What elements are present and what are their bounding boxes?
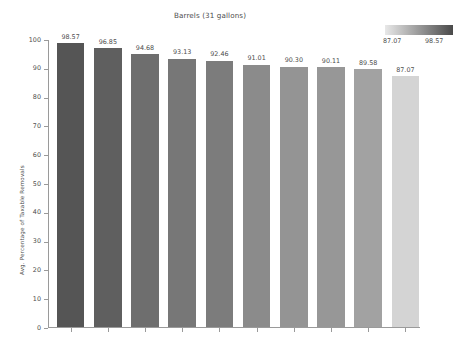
bar[interactable]: 89.58 [354, 69, 382, 327]
y-tick-mark [44, 98, 48, 99]
y-tick-label: 70 [33, 122, 41, 130]
bar-value-label: 89.58 [359, 59, 377, 67]
y-tick-mark [44, 126, 48, 127]
bar[interactable]: 93.13 [168, 59, 196, 327]
bar[interactable]: 87.07 [392, 76, 420, 327]
y-tick-label: 0 [37, 324, 41, 332]
bar[interactable]: 96.85 [94, 48, 122, 327]
y-tick-mark [44, 242, 48, 243]
x-tick-mark [257, 328, 258, 332]
y-tick-label: 50 [33, 180, 41, 188]
plot-area: 0102030405060708090100 98.5796.8594.6893… [48, 40, 420, 328]
bar-value-label: 90.11 [322, 57, 340, 65]
x-tick-mark [219, 328, 220, 332]
bar[interactable]: 91.01 [243, 65, 271, 327]
x-tick-mark [182, 328, 183, 332]
y-tick-mark [44, 299, 48, 300]
x-tick-mark [145, 328, 146, 332]
bar[interactable]: 90.11 [317, 67, 345, 327]
x-tick-mark [331, 328, 332, 332]
x-tick-mark [294, 328, 295, 332]
colorbar-max-label: 98.57 [425, 37, 443, 45]
y-tick-label: 60 [33, 151, 41, 159]
y-tick-mark [44, 328, 48, 329]
colorbar-gradient [385, 25, 453, 35]
bar-value-label: 91.01 [247, 54, 265, 62]
x-tick-mark [368, 328, 369, 332]
x-tick-mark [71, 328, 72, 332]
bar-value-label: 96.85 [99, 38, 117, 46]
y-tick-mark [44, 184, 48, 185]
x-axis-spine [48, 327, 420, 328]
y-tick-mark [44, 213, 48, 214]
bar[interactable]: 94.68 [131, 54, 159, 327]
x-tick-mark [405, 328, 406, 332]
y-tick-label: 10 [33, 295, 41, 303]
x-tick-mark [108, 328, 109, 332]
y-tick-label: 30 [33, 237, 41, 245]
y-axis-title: Avg. Percentage of Taxable Removals [19, 25, 25, 275]
y-tick-label: 100 [29, 36, 41, 44]
y-axis-spine [48, 40, 49, 328]
bar-chart: Barrels (31 gallons) 87.07 98.57 Avg. Pe… [0, 0, 461, 363]
y-tick-mark [44, 270, 48, 271]
bar-value-label: 93.13 [173, 48, 191, 56]
y-tick-mark [44, 155, 48, 156]
bar-value-label: 94.68 [136, 44, 154, 52]
chart-title: Barrels (31 gallons) [0, 11, 420, 20]
bar[interactable]: 92.46 [206, 61, 234, 327]
y-tick-label: 80 [33, 93, 41, 101]
bar-value-label: 92.46 [210, 50, 228, 58]
bar-value-label: 90.30 [285, 56, 303, 64]
y-tick-label: 20 [33, 266, 41, 274]
y-tick-mark [44, 69, 48, 70]
bar-value-label: 98.57 [61, 33, 79, 41]
bar-value-label: 87.07 [396, 66, 414, 74]
y-tick-label: 90 [33, 64, 41, 72]
y-tick-mark [44, 40, 48, 41]
bar[interactable]: 98.57 [57, 43, 85, 327]
bar[interactable]: 90.30 [280, 67, 308, 327]
y-tick-label: 40 [33, 208, 41, 216]
